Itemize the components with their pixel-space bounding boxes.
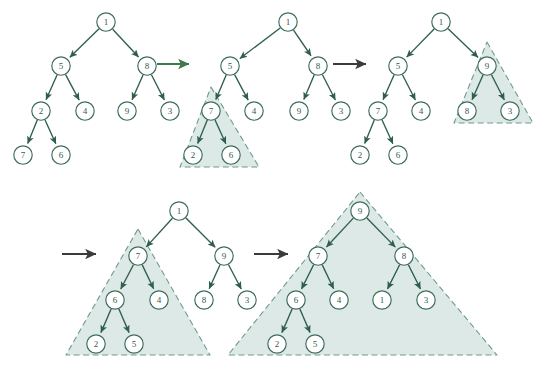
tree-node[interactable]: 9 bbox=[478, 57, 496, 75]
tree-node[interactable]: 3 bbox=[501, 102, 519, 120]
tree-node[interactable]: 4 bbox=[150, 291, 168, 309]
tree-node[interactable]: 5 bbox=[52, 57, 70, 75]
tree-node[interactable]: 2 bbox=[87, 335, 105, 353]
node-label: 2 bbox=[191, 150, 196, 160]
tree-node[interactable]: 3 bbox=[332, 102, 350, 120]
tree-node[interactable]: 6 bbox=[52, 146, 70, 164]
tree-node[interactable]: 4 bbox=[245, 102, 263, 120]
node-label: 1 bbox=[380, 295, 385, 305]
node-label: 3 bbox=[245, 295, 250, 305]
node-label: 7 bbox=[21, 150, 26, 160]
tree-node[interactable]: 6 bbox=[287, 291, 305, 309]
tree-node[interactable]: 1 bbox=[170, 202, 188, 220]
tree-edge bbox=[448, 29, 478, 58]
node-label: 2 bbox=[358, 150, 363, 160]
tree-edge bbox=[132, 75, 143, 100]
node-label: 5 bbox=[132, 339, 137, 349]
tree-node[interactable]: 5 bbox=[125, 335, 143, 353]
node-label: 7 bbox=[136, 251, 141, 261]
tree-edge bbox=[294, 30, 311, 56]
node-label: 4 bbox=[252, 106, 257, 116]
tree-node[interactable]: 5 bbox=[221, 57, 239, 75]
node-label: 5 bbox=[396, 61, 401, 71]
tree-node[interactable]: 2 bbox=[268, 335, 286, 353]
tree-edge bbox=[382, 120, 393, 144]
node-label: 5 bbox=[59, 61, 64, 71]
tree-node[interactable]: 6 bbox=[222, 146, 240, 164]
tree-node[interactable]: 2 bbox=[351, 146, 369, 164]
tree-node[interactable]: 7 bbox=[14, 146, 32, 164]
tree-node[interactable]: 3 bbox=[161, 102, 179, 120]
tree-edge bbox=[322, 75, 335, 100]
tree-node[interactable]: 7 bbox=[309, 247, 327, 265]
tree-node[interactable]: 9 bbox=[290, 102, 308, 120]
tree-edge bbox=[402, 75, 415, 100]
tree-node[interactable]: 6 bbox=[389, 146, 407, 164]
node-label: 8 bbox=[145, 61, 150, 71]
node-label: 9 bbox=[297, 106, 302, 116]
tree-node[interactable]: 4 bbox=[330, 291, 348, 309]
tree-node[interactable]: 1 bbox=[432, 13, 450, 31]
tree-edge bbox=[235, 75, 249, 100]
tree-edge bbox=[304, 75, 314, 100]
tree-node[interactable]: 2 bbox=[184, 146, 202, 164]
tree-node[interactable]: 4 bbox=[412, 102, 430, 120]
tree-node[interactable]: 9 bbox=[118, 102, 136, 120]
node-label: 8 bbox=[465, 106, 470, 116]
tree-node[interactable]: 1 bbox=[373, 291, 391, 309]
tree-edge bbox=[407, 29, 434, 57]
tree-edge bbox=[66, 75, 80, 100]
tree-node[interactable]: 3 bbox=[417, 291, 435, 309]
node-label: 3 bbox=[424, 295, 429, 305]
tree-node[interactable]: 5 bbox=[389, 57, 407, 75]
node-label: 4 bbox=[83, 106, 88, 116]
node-label: 6 bbox=[294, 295, 299, 305]
tree-node[interactable]: 9 bbox=[351, 202, 369, 220]
tree-node[interactable]: 1 bbox=[279, 13, 297, 31]
node-label: 1 bbox=[177, 206, 182, 216]
tree-node[interactable]: 8 bbox=[458, 102, 476, 120]
tree-node[interactable]: 3 bbox=[238, 291, 256, 309]
node-label: 8 bbox=[202, 295, 207, 305]
tree-node[interactable]: 8 bbox=[395, 247, 413, 265]
tree-edge bbox=[28, 120, 38, 143]
tree-edge bbox=[113, 29, 139, 57]
tree-edge bbox=[46, 75, 57, 100]
node-label: 3 bbox=[508, 106, 513, 116]
node-label: 6 bbox=[113, 295, 118, 305]
node-label: 2 bbox=[39, 106, 44, 116]
node-label: 6 bbox=[59, 150, 64, 160]
tree-node[interactable]: 8 bbox=[309, 57, 327, 75]
tree-node[interactable]: 4 bbox=[76, 102, 94, 120]
tree-edge bbox=[209, 265, 220, 289]
node-label: 7 bbox=[316, 251, 321, 261]
tree-node[interactable]: 2 bbox=[32, 102, 50, 120]
node-label: 9 bbox=[485, 61, 490, 71]
tree-edge bbox=[186, 218, 215, 247]
node-label: 9 bbox=[358, 206, 363, 216]
node-label: 4 bbox=[157, 295, 162, 305]
tree-node[interactable]: 1 bbox=[97, 13, 115, 31]
node-label: 5 bbox=[228, 61, 233, 71]
node-label: 6 bbox=[396, 150, 401, 160]
tree-node[interactable]: 8 bbox=[138, 57, 156, 75]
node-label: 9 bbox=[222, 251, 227, 261]
tree-node[interactable]: 7 bbox=[129, 247, 147, 265]
node-label: 1 bbox=[104, 17, 109, 27]
tree-node[interactable]: 7 bbox=[369, 102, 387, 120]
tree-node[interactable]: 9 bbox=[215, 247, 233, 265]
node-label: 8 bbox=[402, 251, 407, 261]
tree-node[interactable]: 7 bbox=[202, 102, 220, 120]
node-label: 2 bbox=[94, 339, 99, 349]
tree-node[interactable]: 8 bbox=[195, 291, 213, 309]
tree-edge bbox=[45, 120, 56, 144]
tree-node[interactable]: 6 bbox=[106, 291, 124, 309]
tree-edge bbox=[240, 28, 280, 59]
tree-edge bbox=[216, 75, 226, 100]
tree-edge bbox=[229, 265, 242, 289]
node-label: 9 bbox=[125, 106, 130, 116]
node-label: 1 bbox=[439, 17, 444, 27]
tree-edge bbox=[365, 120, 375, 143]
node-label: 4 bbox=[337, 295, 342, 305]
tree-node[interactable]: 5 bbox=[306, 335, 324, 353]
